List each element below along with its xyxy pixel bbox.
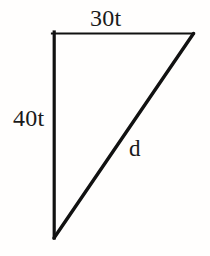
triangle-figure: 30t 40t d <box>0 0 210 256</box>
label-hypotenuse: d <box>129 137 141 160</box>
label-left-side: 40t <box>13 106 44 130</box>
label-top-side: 30t <box>90 6 121 30</box>
triangle-hypotenuse <box>54 34 194 239</box>
